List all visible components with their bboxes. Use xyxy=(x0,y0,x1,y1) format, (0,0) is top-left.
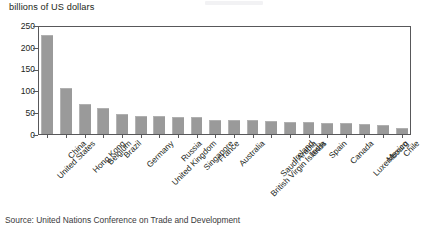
y-axis-unit-label: billions of US dollars xyxy=(9,2,94,12)
bar xyxy=(191,117,203,134)
x-axis-label-slot: United Kingdom xyxy=(150,139,169,205)
x-axis-label-slot: Hong Kong xyxy=(75,139,94,205)
x-axis-labels: United StatesChinaHong KongBelgiumBrazil… xyxy=(38,139,411,205)
scan-artifact xyxy=(205,1,263,5)
bar xyxy=(359,124,371,134)
bar-series xyxy=(38,26,411,134)
bar xyxy=(340,123,352,134)
bar-slot xyxy=(206,26,225,134)
bar xyxy=(396,128,408,134)
bar-slot xyxy=(150,26,169,134)
x-axis-label-slot: Belgium xyxy=(94,139,113,205)
y-axis: 050100150200250 xyxy=(0,20,38,141)
bar-slot xyxy=(187,26,206,134)
bar xyxy=(284,122,296,134)
chart-figure: billions of US dollars 050100150200250 U… xyxy=(0,0,423,228)
bar-slot xyxy=(57,26,76,134)
x-axis-label-slot: Luxembourg xyxy=(355,139,374,205)
x-axis-label-slot: China xyxy=(57,139,76,205)
bar xyxy=(321,123,333,134)
bar xyxy=(377,125,389,134)
bar xyxy=(79,104,91,134)
x-axis-label-slot: Australia xyxy=(225,139,244,205)
bar-slot xyxy=(75,26,94,134)
bar-slot xyxy=(225,26,244,134)
bar xyxy=(209,120,221,134)
x-axis-label-slot: Spain xyxy=(318,139,337,205)
bar xyxy=(153,116,165,134)
bar xyxy=(97,108,109,134)
bar-slot xyxy=(243,26,262,134)
bar xyxy=(303,122,315,134)
bar-slot xyxy=(38,26,57,134)
bar-slot xyxy=(374,26,393,134)
bar-slot xyxy=(94,26,113,134)
x-axis-label-slot: Germany xyxy=(131,139,150,205)
x-axis-label-slot: Saudi Arabia xyxy=(262,139,281,205)
bar xyxy=(60,88,72,134)
x-axis-label-slot: Singapore xyxy=(187,139,206,205)
x-axis-label-slot: Ireland xyxy=(281,139,300,205)
bar xyxy=(228,120,240,134)
bar-slot xyxy=(169,26,188,134)
x-axis-label-slot: Mexico xyxy=(374,139,393,205)
x-axis-label-slot: France xyxy=(206,139,225,205)
x-axis-label-slot: British Virgin Islands xyxy=(243,139,262,205)
x-axis-label-slot: United States xyxy=(38,139,57,205)
bar-slot xyxy=(318,26,337,134)
bar-slot xyxy=(299,26,318,134)
bar xyxy=(135,116,147,134)
bar-slot xyxy=(281,26,300,134)
plot-area xyxy=(38,26,411,135)
bar-slot xyxy=(131,26,150,134)
source-note: Source: United Nations Conference on Tra… xyxy=(5,216,240,225)
x-axis-label-slot: Brazil xyxy=(113,139,132,205)
bar xyxy=(41,35,53,134)
bar-slot xyxy=(337,26,356,134)
bar-slot xyxy=(262,26,281,134)
x-axis-label-slot: India xyxy=(299,139,318,205)
bar xyxy=(265,121,277,134)
bar-slot xyxy=(113,26,132,134)
x-axis-label-slot: Russia xyxy=(169,139,188,205)
bar-slot xyxy=(392,26,411,134)
x-axis-label: Chile xyxy=(401,139,421,159)
x-axis-label-slot: Canada xyxy=(337,139,356,205)
bar xyxy=(247,120,259,134)
bar xyxy=(172,117,184,134)
bar-slot xyxy=(355,26,374,134)
bar xyxy=(116,114,128,134)
x-axis-label-slot: Chile xyxy=(392,139,411,205)
